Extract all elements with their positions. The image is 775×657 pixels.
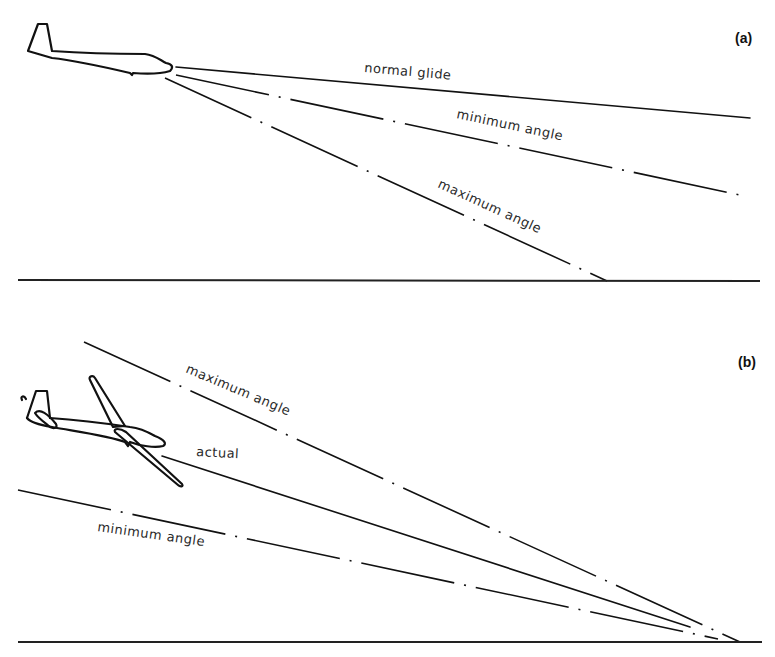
glider-side-view-icon	[28, 24, 172, 75]
label-actual: actual	[196, 444, 240, 461]
label-minimum-angle-b: minimum angle	[97, 519, 206, 549]
glide-angle-diagram: (a) normal glide minimum angle maximum a…	[0, 0, 775, 657]
panel-a: (a) normal glide minimum angle maximum a…	[18, 24, 760, 281]
panel-b: (b) maximum angle actual minimum angle	[18, 342, 762, 642]
glider-banked-icon	[21, 376, 182, 486]
line-maximum-angle-b	[84, 342, 740, 642]
line-actual	[162, 456, 690, 627]
label-maximum-angle-b: maximum angle	[184, 361, 293, 419]
line-minimum-angle-a	[176, 75, 740, 195]
panel-b-label: (b)	[738, 354, 756, 370]
line-maximum-angle-a	[165, 78, 607, 281]
ground-line-a	[18, 280, 760, 281]
label-normal-glide: normal glide	[364, 60, 452, 83]
panel-a-label: (a)	[735, 30, 752, 46]
line-minimum-angle-b	[18, 490, 718, 639]
